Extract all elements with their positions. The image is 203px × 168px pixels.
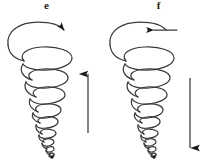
vortex-diagram-e [0, 0, 101, 168]
vortex-panel-f: f [102, 0, 203, 168]
figure-canvas: e [0, 0, 203, 168]
vortex-tip-e [50, 155, 53, 158]
vortex-diagram-f [102, 0, 203, 168]
rotation-arc-e [8, 22, 64, 45]
vortex-tip-f [152, 155, 155, 158]
helix-path-e [8, 22, 72, 159]
helix-path-f [110, 22, 177, 159]
vortex-panel-e: e [0, 0, 101, 168]
